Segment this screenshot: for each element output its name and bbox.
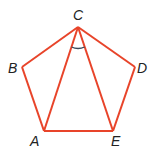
vertex-label-e: E: [111, 133, 121, 149]
pentagon-edges: [22, 27, 135, 131]
edge-ab: [22, 67, 44, 131]
diagonal-ce: [78, 27, 113, 131]
vertex-label-a: A: [29, 133, 39, 149]
edge-cd: [78, 27, 135, 67]
edge-bc: [22, 27, 78, 67]
vertex-label-d: D: [137, 60, 147, 76]
edge-de: [113, 67, 135, 131]
angle-arc-acе: [72, 47, 85, 49]
vertex-label-b: B: [8, 60, 17, 76]
vertex-label-c: C: [73, 7, 84, 23]
diagonal-ca: [44, 27, 78, 131]
pentagon-diagram: C B D A E: [0, 0, 153, 151]
pentagon-diagonals: [44, 27, 113, 131]
